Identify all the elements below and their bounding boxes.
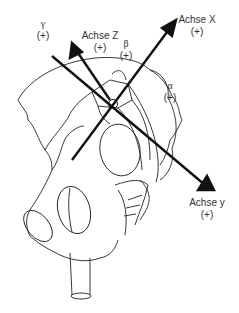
gamma-symbol: γ xyxy=(30,18,56,30)
beta-symbol: β xyxy=(116,38,136,50)
axis-y-label: Achse y (+) xyxy=(182,197,232,221)
beta-sign: (+) xyxy=(116,50,136,62)
gamma-sign: (+) xyxy=(30,30,56,42)
alpha-symbol: α xyxy=(160,80,180,92)
axis-y-arrowhead xyxy=(198,176,214,190)
axis-y-name: Achse y xyxy=(182,197,232,209)
pelvis-outline xyxy=(18,58,182,300)
axis-x-label: Achse X (+) xyxy=(172,14,222,38)
alpha-label: α (+) xyxy=(160,80,180,104)
alpha-sign: (+) xyxy=(160,92,180,104)
gamma-label: γ (+) xyxy=(30,18,56,42)
axis-x-sign: (+) xyxy=(172,26,222,38)
axis-y-sign: (+) xyxy=(182,209,232,221)
axis-x-name: Achse X xyxy=(172,14,222,26)
beta-label: β (+) xyxy=(116,38,136,62)
